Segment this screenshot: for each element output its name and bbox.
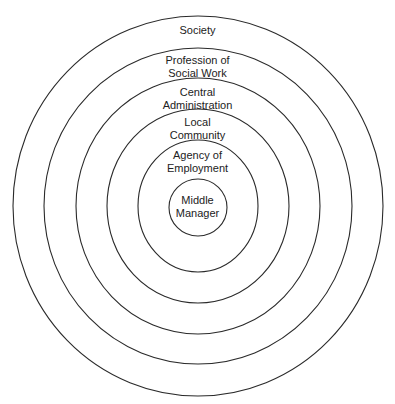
label-line: Middle [0,194,395,207]
label-agency: Agency of Employment [0,149,395,174]
label-central-admin: Central Administration [0,86,395,111]
label-line: Agency of [0,149,395,162]
label-line: Society [0,24,395,37]
label-line: Social Work [0,67,395,80]
label-line: Administration [0,99,395,112]
label-middle-manager: Middle Manager [0,194,395,219]
label-society: Society [0,24,395,37]
label-line: Central [0,86,395,99]
concentric-diagram: Society Profession of Social Work Centra… [0,0,395,404]
label-profession: Profession of Social Work [0,54,395,79]
label-line: Local [0,116,395,129]
label-local-community: Local Community [0,116,395,141]
label-line: Employment [0,162,395,175]
label-line: Community [0,129,395,142]
label-line: Profession of [0,54,395,67]
label-line: Manager [0,207,395,220]
